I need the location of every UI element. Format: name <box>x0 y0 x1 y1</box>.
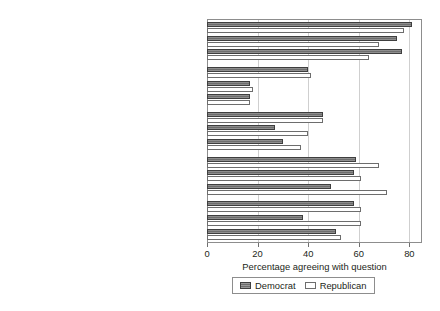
x-tick-label: 0 <box>204 248 209 259</box>
bar-republican <box>207 163 379 168</box>
bar-pair <box>207 200 422 214</box>
chart-legend: Democrat Republican <box>232 277 375 294</box>
bar-group <box>207 21 422 62</box>
bar-groups <box>207 19 422 243</box>
bar-pair <box>207 80 422 94</box>
bar-democrat <box>207 67 308 72</box>
x-axis-ticks: 020406080 <box>207 243 422 248</box>
bar-pair <box>207 156 422 170</box>
bar-republican <box>207 190 387 195</box>
x-tick-mark <box>207 243 208 247</box>
bar-group <box>207 111 422 152</box>
bar-democrat <box>207 170 354 175</box>
bar-pair <box>207 124 422 138</box>
bar-republican <box>207 207 361 212</box>
bar-democrat <box>207 201 354 206</box>
bar-republican <box>207 55 369 60</box>
bar-pair <box>207 48 422 62</box>
bar-democrat <box>207 157 356 162</box>
legend-label-republican: Republican <box>320 280 367 291</box>
bar-democrat <box>207 81 250 86</box>
bar-democrat <box>207 36 397 41</box>
bar-pair <box>207 93 422 107</box>
bar-republican <box>207 73 311 78</box>
bar-democrat <box>207 184 331 189</box>
x-tick-mark <box>258 243 259 247</box>
legend-swatch-democrat <box>240 282 251 289</box>
chart-figure: More important to compromiseOK to hurl i… <box>0 0 440 311</box>
bar-pair <box>207 111 422 125</box>
bar-republican <box>207 42 379 47</box>
bar-democrat <box>207 94 250 99</box>
bar-republican <box>207 221 361 226</box>
bar-democrat <box>207 229 336 234</box>
bar-pair <box>207 66 422 80</box>
legend-label-democrat: Democrat <box>255 280 296 291</box>
bar-republican <box>207 176 361 181</box>
bar-democrat <box>207 125 275 130</box>
bar-pair <box>207 214 422 228</box>
bar-group <box>207 66 422 107</box>
bar-group <box>207 156 422 197</box>
bar-pair <box>207 21 422 35</box>
legend-swatch-republican <box>305 282 316 289</box>
bar-republican <box>207 235 341 240</box>
bar-republican <box>207 118 323 123</box>
bar-republican <box>207 145 301 150</box>
bar-pair <box>207 169 422 183</box>
bar-democrat <box>207 22 412 27</box>
bar-republican <box>207 87 253 92</box>
x-tick-label: 60 <box>354 248 364 259</box>
x-tick-mark <box>308 243 309 247</box>
x-tick-label: 20 <box>252 248 262 259</box>
x-tick-mark <box>359 243 360 247</box>
bar-pair <box>207 183 422 197</box>
bar-democrat <box>207 112 323 117</box>
bar-democrat <box>207 215 303 220</box>
x-tick-mark <box>409 243 410 247</box>
bar-democrat <box>207 49 402 54</box>
bar-democrat <box>207 139 283 144</box>
bar-republican <box>207 100 250 105</box>
bar-pair <box>207 138 422 152</box>
x-tick-label: 80 <box>404 248 414 259</box>
bar-group <box>207 200 422 241</box>
legend-entry-republican: Republican <box>305 280 367 291</box>
x-tick-label: 40 <box>303 248 313 259</box>
bar-republican <box>207 131 308 136</box>
bar-republican <box>207 28 404 33</box>
legend-entry-democrat: Democrat <box>240 280 296 291</box>
x-axis-title: Percentage agreeing with question <box>207 261 422 272</box>
bar-pair <box>207 228 422 242</box>
bar-pair <box>207 35 422 49</box>
